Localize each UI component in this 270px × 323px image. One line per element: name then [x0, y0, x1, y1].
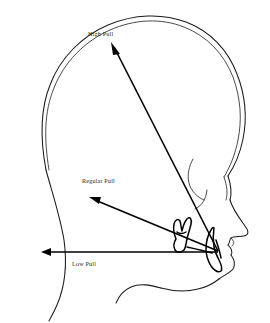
upper-lip-contour: [228, 245, 232, 255]
regular-pull-label: Regular Pull: [82, 177, 115, 184]
headgear-traction-figure: High Pull Regular Pull Low Pull: [0, 0, 270, 323]
low-pull-vector: [41, 248, 218, 256]
low-pull-label: Low Pull: [72, 260, 96, 267]
head-profile-diagram: High Pull Regular Pull Low Pull: [0, 0, 270, 323]
regular-pull-arrowhead: [89, 197, 101, 204]
zygomatic-cheek-curve: [195, 190, 207, 209]
mandible-submental-line: [116, 285, 161, 303]
forehead-glabella-contour: [228, 176, 231, 200]
molar-root-detail: [177, 232, 186, 234]
forehead-inner-contour: [224, 177, 227, 200]
regular-pull-vector: [89, 197, 218, 251]
neck-posterior-line: [46, 170, 66, 321]
nasal-ala: [231, 238, 234, 246]
cranium-inner-outline: [46, 21, 241, 177]
cranium-outer-outline: [42, 16, 245, 176]
high-pull-arrowhead: [111, 42, 120, 55]
low-pull-arrowhead: [41, 248, 51, 256]
high-pull-vector: [111, 42, 218, 251]
regular-pull-shaft: [95, 200, 218, 251]
high-pull-shaft: [114, 47, 218, 251]
high-pull-label: High Pull: [88, 30, 113, 37]
chin-mentum-contour: [161, 279, 219, 291]
supraorbital-ridge: [188, 159, 204, 200]
